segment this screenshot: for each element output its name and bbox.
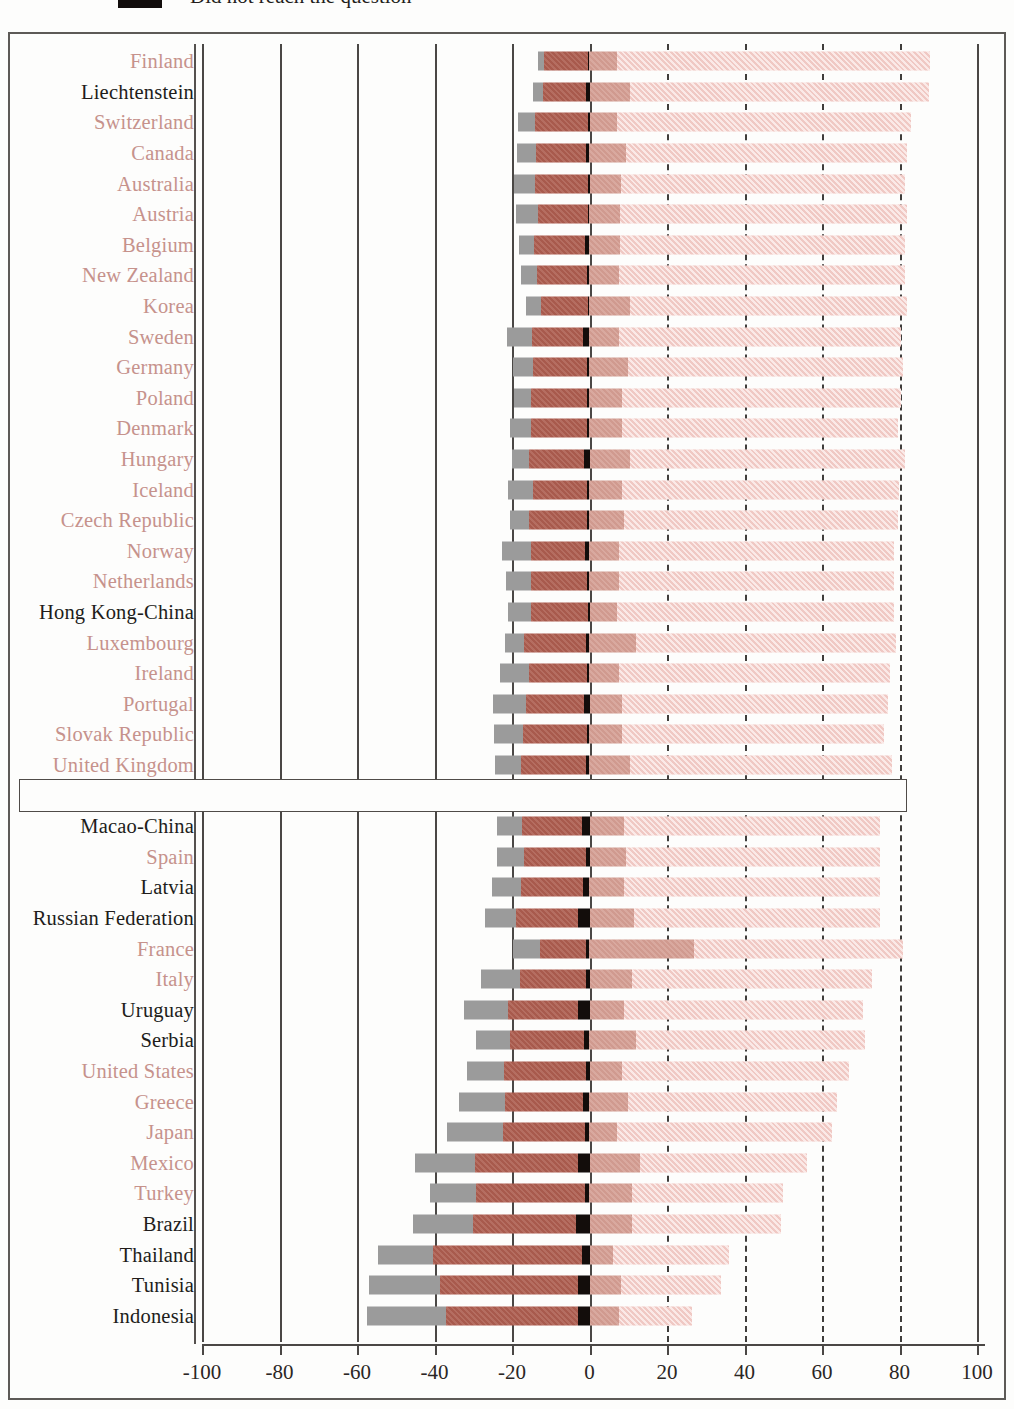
bar-segment-gray [413, 1215, 473, 1234]
chart-row: Hungary [10, 444, 1008, 475]
bar-segment-mid-salmon [589, 205, 620, 224]
bar-segment-gray [447, 1123, 503, 1142]
bar-segment-mid-salmon [590, 817, 625, 836]
bar-segment-light-pink [620, 205, 907, 224]
bar-segment-mid-salmon [590, 1306, 619, 1325]
bar-segment-dark-brown [529, 450, 583, 469]
bar-segment-mid-salmon [589, 1031, 636, 1050]
chart-row: Belgium [10, 230, 1008, 261]
chart-row: Uruguay [10, 995, 1008, 1026]
axis-tick--60 [357, 1344, 359, 1355]
chart-row: Spain [10, 842, 1008, 873]
axis-tick--80 [280, 1344, 282, 1355]
chart-row: Korea [10, 291, 1008, 322]
stacked-bar [505, 633, 896, 652]
chart-row: Sweden [10, 321, 1008, 352]
bar-segment-mid-salmon [589, 388, 622, 407]
bar-segment-black-did-not-reach [578, 909, 590, 928]
row-label-sweden: Sweden [128, 325, 194, 348]
bar-segment-gray [493, 694, 526, 713]
bar-segment-dark-brown [544, 52, 589, 71]
chart-row: Thailand [10, 1239, 1008, 1270]
plot-area: FinlandLiechtensteinSwitzerlandCanadaAus… [10, 34, 1008, 1402]
bar-segment-black-did-not-reach [582, 817, 590, 836]
row-label-new-zealand: New Zealand [82, 264, 194, 287]
value-axis-line [202, 1344, 985, 1346]
stacked-bar [459, 1092, 838, 1111]
bar-segment-light-pink [628, 1092, 837, 1111]
row-label-norway: Norway [127, 539, 194, 562]
bar-segment-mid-salmon [589, 480, 622, 499]
bar-segment-dark-brown [516, 909, 578, 928]
bar-segment-light-pink [619, 266, 906, 285]
bar-segment-dark-brown [505, 1092, 583, 1111]
bar-segment-dark-brown [440, 1276, 578, 1295]
bar-segment-light-pink [617, 603, 894, 622]
bar-segment-gray [514, 174, 535, 193]
row-label-russian-federation: Russian Federation [33, 907, 194, 930]
axis-tick-20 [667, 1344, 669, 1355]
stacked-bar [497, 847, 881, 866]
row-label-united-kingdom: United Kingdom [53, 754, 194, 777]
row-label-serbia: Serbia [140, 1029, 194, 1052]
chart-row: Czech Republic [10, 505, 1008, 536]
row-label-thailand: Thailand [120, 1243, 194, 1266]
bar-segment-light-pink [622, 480, 899, 499]
bar-segment-dark-brown [473, 1215, 576, 1234]
chart-row: France [10, 933, 1008, 964]
stacked-bar [367, 1306, 693, 1325]
row-label-united-states: United States [82, 1060, 195, 1083]
bar-segment-mid-salmon [590, 1276, 621, 1295]
axis-tick-100 [977, 1344, 979, 1355]
stacked-bar [521, 266, 905, 285]
chart-row: Germany [10, 352, 1008, 383]
row-label-belgium: Belgium [122, 233, 194, 256]
stacked-bar [494, 725, 884, 744]
bar-segment-mid-salmon [589, 358, 628, 377]
bar-segment-gray [513, 358, 532, 377]
bar-segment-light-pink [622, 1062, 849, 1081]
axis-tick-label--80: -80 [266, 1360, 294, 1385]
bar-segment-mid-salmon [589, 572, 618, 591]
bar-segment-mid-salmon [590, 113, 617, 132]
bar-segment-mid-salmon [589, 1184, 632, 1203]
chart-row: Iceland [10, 474, 1008, 505]
row-label-turkey: Turkey [134, 1182, 194, 1205]
bar-segment-dark-brown [543, 82, 586, 101]
bar-segment-light-pink [630, 82, 928, 101]
bar-segment-gray [378, 1245, 432, 1264]
row-label-brazil: Brazil [143, 1213, 194, 1236]
axis-tick-label-20: 20 [657, 1360, 678, 1385]
bar-segment-dark-brown [510, 1031, 584, 1050]
stacked-bar [464, 1000, 863, 1019]
bar-segment-mid-salmon [589, 235, 620, 254]
chart-row: Serbia [10, 1025, 1008, 1056]
axis-tick-label--60: -60 [343, 1360, 371, 1385]
bar-segment-light-pink [640, 1153, 807, 1172]
row-label-germany: Germany [116, 356, 194, 379]
bar-segment-gray [513, 939, 540, 958]
bar-segment-dark-brown [446, 1306, 578, 1325]
bar-segment-dark-brown [524, 847, 586, 866]
bar-segment-gray [430, 1184, 477, 1203]
bar-segment-mid-salmon [589, 419, 622, 438]
stacked-bar [514, 388, 902, 407]
chart-row: Japan [10, 1117, 1008, 1148]
bar-segment-dark-brown [520, 970, 586, 989]
bar-segment-dark-brown [541, 297, 588, 316]
bar-segment-mid-salmon [589, 939, 694, 958]
row-label-japan: Japan [146, 1121, 194, 1144]
bar-segment-gray [369, 1276, 441, 1295]
row-label-austria: Austria [132, 203, 194, 226]
bar-segment-gray [481, 970, 520, 989]
bar-segment-gray [497, 817, 522, 836]
chart-row: Macao-China [10, 811, 1008, 842]
row-label-iceland: Iceland [132, 478, 194, 501]
chart-row: Denmark [10, 413, 1008, 444]
axis-tick-label--40: -40 [421, 1360, 449, 1385]
chart-row: United Kingdom [10, 750, 1008, 781]
bar-segment-dark-brown [531, 419, 587, 438]
chart-row: Greece [10, 1086, 1008, 1117]
stacked-bar [513, 358, 903, 377]
bar-segment-gray [459, 1092, 506, 1111]
